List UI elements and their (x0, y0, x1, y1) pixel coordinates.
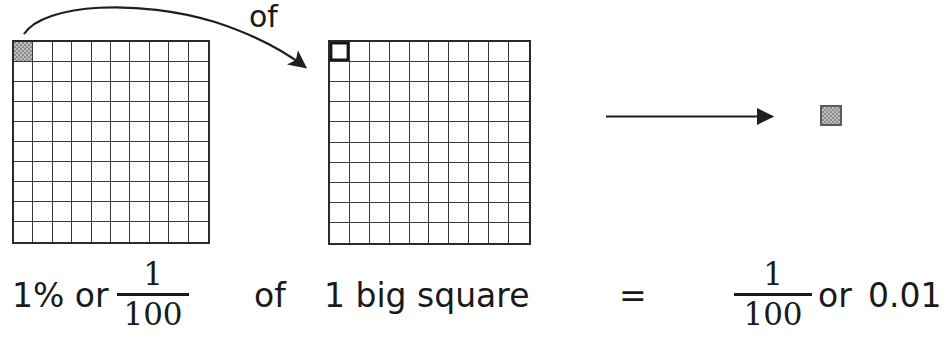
grid-cell (350, 82, 370, 102)
grid-cell (469, 203, 489, 223)
grid-cell (33, 202, 52, 222)
grid-cell (330, 82, 350, 102)
grid-cell (14, 202, 33, 222)
grid-cell (429, 62, 449, 82)
grid-cell (169, 122, 188, 142)
grid-cell (92, 202, 111, 222)
grid-cell (350, 62, 370, 82)
decimal-value-label: 0.01 (868, 279, 941, 312)
grid-cell (350, 203, 370, 223)
grid-cell (189, 62, 208, 82)
grid-cell (130, 142, 149, 162)
grid-cell (150, 222, 169, 242)
grid-cell (189, 102, 208, 122)
or-label-right: or (818, 279, 852, 312)
grid-cell (509, 203, 529, 223)
grid-cell (469, 102, 489, 122)
grid-cell (111, 102, 130, 122)
grid-cell (33, 142, 52, 162)
grid-cell-outlined (330, 42, 350, 62)
grid-cell (130, 62, 149, 82)
grid-cell (330, 102, 350, 122)
grid-cell (72, 162, 91, 182)
grid-cell (111, 42, 130, 62)
grid-cell (53, 42, 72, 62)
grid-cell (370, 82, 390, 102)
grid-cell (390, 183, 410, 203)
grid-cell (469, 223, 489, 243)
grid-cell (390, 122, 410, 142)
grid-cell (33, 42, 52, 62)
grid-cell (111, 162, 130, 182)
equals-sign: = (619, 279, 647, 312)
percent-or-label: 1% or (12, 279, 109, 312)
grid-cell (489, 62, 509, 82)
grid-cell (370, 183, 390, 203)
grid-cell (390, 203, 410, 223)
grid-cell (150, 142, 169, 162)
grid-cell (429, 203, 449, 223)
grid-cell (509, 82, 529, 102)
grid-cell (53, 122, 72, 142)
grid-cell (14, 222, 33, 242)
fraction-one-hundredth-left: 1 100 (117, 258, 189, 331)
grid-cell (509, 122, 529, 142)
grid-cell (150, 182, 169, 202)
grid-cell (350, 122, 370, 142)
grid-cell (130, 202, 149, 222)
grid-cell (92, 122, 111, 142)
grid-cell (469, 183, 489, 203)
fraction-denominator: 100 (734, 297, 812, 331)
grid-cell (130, 102, 149, 122)
grid-cell (130, 162, 149, 182)
grid-cell (370, 122, 390, 142)
grid-cell (429, 143, 449, 163)
grid-cell (350, 163, 370, 183)
grid-cell (410, 82, 430, 102)
grid-cell (14, 122, 33, 142)
grid-cell (14, 102, 33, 122)
grid-cell (14, 142, 33, 162)
hundredths-grid-source (12, 40, 210, 244)
grid-cell-shaded (14, 42, 33, 62)
grid-cell (169, 102, 188, 122)
grid-cell (72, 142, 91, 162)
grid-cell (350, 223, 370, 243)
grid-cell (429, 102, 449, 122)
grid-cell (189, 222, 208, 242)
grid-cell (370, 143, 390, 163)
grid-cell (509, 223, 529, 243)
fraction-numerator: 1 (734, 258, 812, 291)
grid-cell (489, 42, 509, 62)
grid-cell (72, 42, 91, 62)
grid-cell (150, 82, 169, 102)
grid-cell (150, 102, 169, 122)
grid-cell (150, 62, 169, 82)
grid-cell (130, 182, 149, 202)
grid-cell (72, 122, 91, 142)
grid-cell (489, 163, 509, 183)
grid-cell (130, 82, 149, 102)
grid-cell (390, 82, 410, 102)
grid-cell (370, 223, 390, 243)
grid-cell (189, 142, 208, 162)
grid-cell (469, 122, 489, 142)
grid-cell (189, 42, 208, 62)
grid-cell (390, 62, 410, 82)
grid-cell (53, 222, 72, 242)
grid-cell (14, 82, 33, 102)
grid-cell (150, 42, 169, 62)
grid-cell (150, 202, 169, 222)
grid-cell (14, 182, 33, 202)
grid-cell (350, 42, 370, 62)
grid-cell (489, 122, 509, 142)
fraction-numerator: 1 (117, 258, 189, 291)
grid-cell (410, 122, 430, 142)
grid-cell (72, 102, 91, 122)
grid-cell (509, 163, 529, 183)
grid-cell (330, 223, 350, 243)
grid-cell (429, 183, 449, 203)
grid-cell (350, 183, 370, 203)
grid-cell (390, 223, 410, 243)
grid-cell (169, 222, 188, 242)
